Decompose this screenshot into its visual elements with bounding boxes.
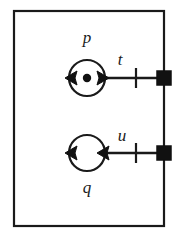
place-p-label: p [82, 28, 92, 47]
place-p-token-icon [83, 74, 91, 82]
transition-t-label: t [118, 50, 124, 69]
transition-u-label: u [118, 126, 127, 145]
petri-net-diagram: p q t u [0, 0, 180, 234]
transition-t-square[interactable] [157, 71, 171, 85]
transition-u-square[interactable] [157, 146, 171, 160]
place-q-label: q [83, 178, 92, 197]
diagram-canvas: p q t u [0, 0, 180, 234]
